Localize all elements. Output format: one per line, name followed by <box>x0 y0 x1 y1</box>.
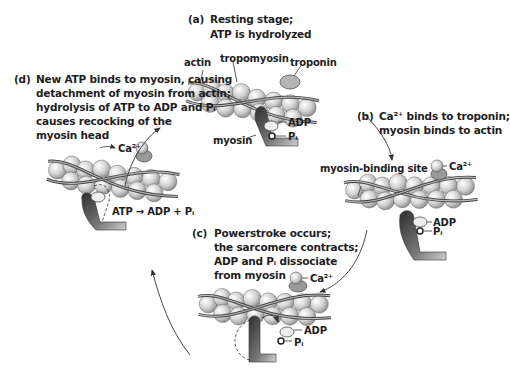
stage-a-letter: (a) <box>188 13 204 26</box>
stage-b-line-1: Ca²⁺ binds to troponin; <box>379 110 510 123</box>
label-ca-d: Ca²⁺ <box>118 142 141 155</box>
label-actin: actin <box>184 56 211 69</box>
stage-c-letter: (c) <box>192 227 207 240</box>
stage-a-line-1: Resting stage; <box>210 13 293 26</box>
troponin-ca-c <box>289 272 307 292</box>
label-reaction: ATP → ADP + Pᵢ <box>112 205 194 218</box>
stage-d-line-2: detachment of myosin from actin; <box>36 87 231 100</box>
actin-filament-c <box>198 285 331 330</box>
actin-filament-d <box>46 154 180 203</box>
label-adp-a: ADP <box>288 116 311 129</box>
stage-d-line-4: causes recocking of the <box>36 115 172 128</box>
label-pi-c: Pᵢ <box>294 336 303 349</box>
label-myosin: myosin <box>213 134 252 147</box>
label-pi-b: Pᵢ <box>433 225 442 238</box>
label-myosin-binding-site: myosin-binding site <box>320 162 428 175</box>
label-adp-c: ADP <box>304 324 327 337</box>
stage-b-letter: (b) <box>357 110 374 123</box>
label-troponin: troponin <box>290 56 337 69</box>
stage-c-line-1: Powerstroke occurs; <box>214 227 331 240</box>
label-ca-c: Ca²⁺ <box>310 272 333 285</box>
label-pi-a: Pᵢ <box>288 130 297 143</box>
stage-c-line-2: the sarcomere contracts; <box>214 241 358 254</box>
troponin-ca-b <box>431 160 447 180</box>
stage-b-line-2: myosin binds to actin <box>379 124 502 137</box>
label-tropomyosin: tropomyosin <box>220 52 289 65</box>
stage-c-line-3: ADP and Pᵢ dissociate <box>214 255 337 268</box>
stage-d-line-5: myosin head <box>36 129 109 142</box>
stage-d-letter: (d) <box>14 73 31 86</box>
stage-a-line-2: ATP is hydrolyzed <box>210 28 311 41</box>
label-ca-b: Ca²⁺ <box>449 160 472 173</box>
stage-c-line-4: from myosin <box>214 269 286 282</box>
troponin-a <box>280 75 300 89</box>
stage-d-line-1: New ATP binds to myosin, causing <box>36 73 232 86</box>
stage-d-line-3: hydrolysis of ATP to ADP and Pᵢ <box>36 101 215 114</box>
